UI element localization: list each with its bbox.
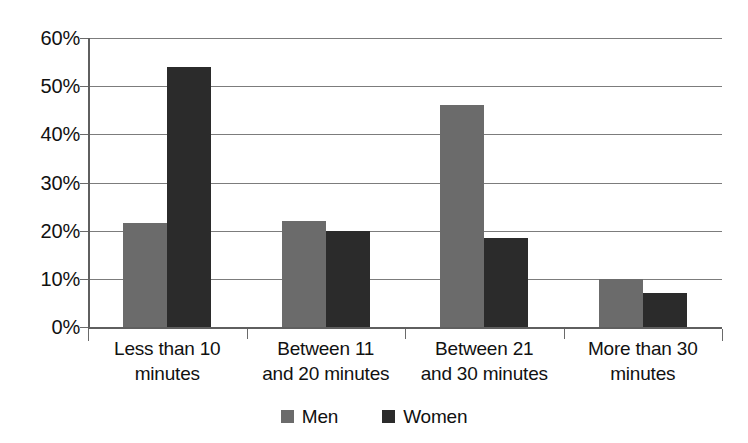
bar-women-1 xyxy=(326,231,370,327)
y-axis-tick-label: 20% xyxy=(2,221,80,241)
legend-label: Women xyxy=(403,407,467,426)
x-axis-tick-mark xyxy=(722,329,723,341)
legend-label: Men xyxy=(302,407,338,426)
chart-legend: MenWomen xyxy=(0,400,748,432)
category-label-line: minutes xyxy=(564,361,723,386)
legend-swatch-icon xyxy=(281,410,294,423)
bar-men-2 xyxy=(440,105,484,327)
category-label-line: and 30 minutes xyxy=(405,361,564,386)
bar-women-0 xyxy=(167,67,211,327)
bar-chart: 60%50%40%30%20%10%0% Less than 10minutes… xyxy=(0,0,748,443)
gridline xyxy=(88,38,722,39)
bar-women-2 xyxy=(484,238,528,327)
bar-men-3 xyxy=(599,279,643,327)
x-axis-category-label: More than 30minutes xyxy=(564,336,723,386)
y-axis-line xyxy=(88,38,90,328)
x-axis-category-labels: Less than 10minutesBetween 11and 20 minu… xyxy=(88,336,722,394)
category-label-line: Between 21 xyxy=(405,336,564,361)
category-label-line: and 20 minutes xyxy=(247,361,406,386)
legend-item-men[interactable]: Men xyxy=(281,407,338,426)
y-axis-labels: 60%50%40%30%20%10%0% xyxy=(0,0,80,443)
x-axis-category-label: Between 11and 20 minutes xyxy=(247,336,406,386)
y-axis-tick-label: 30% xyxy=(2,173,80,193)
x-axis-category-label: Between 21and 30 minutes xyxy=(405,336,564,386)
y-axis-tick-label: 0% xyxy=(2,317,80,337)
category-label-line: Less than 10 xyxy=(88,336,247,361)
y-axis-tick-label: 60% xyxy=(2,28,80,48)
legend-swatch-icon xyxy=(382,410,395,423)
y-axis-tick-label: 50% xyxy=(2,76,80,96)
x-axis-category-label: Less than 10minutes xyxy=(88,336,247,386)
category-label-line: Between 11 xyxy=(247,336,406,361)
bar-men-1 xyxy=(282,221,326,327)
plot-area xyxy=(88,38,722,327)
bar-men-0 xyxy=(123,223,167,327)
legend-item-women[interactable]: Women xyxy=(382,407,467,426)
category-label-line: More than 30 xyxy=(564,336,723,361)
y-axis-tick-label: 40% xyxy=(2,124,80,144)
bar-women-3 xyxy=(643,293,687,327)
category-label-line: minutes xyxy=(88,361,247,386)
y-axis-tick-label: 10% xyxy=(2,269,80,289)
